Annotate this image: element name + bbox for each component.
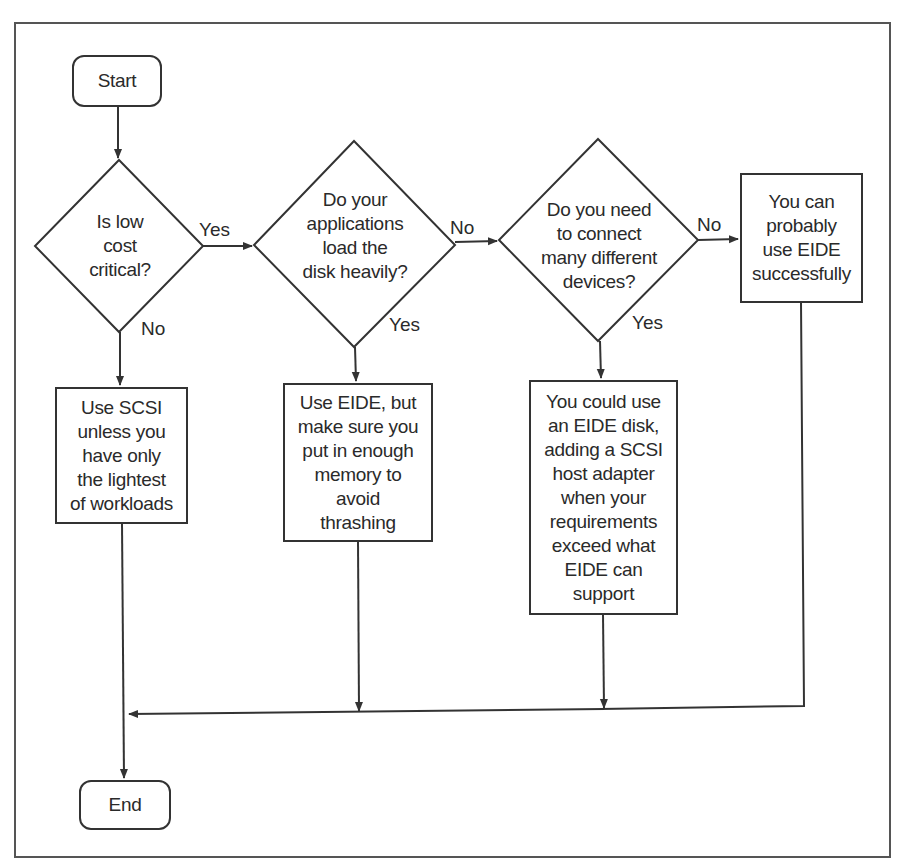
result-eide-scsi-adapter-label: You could use an EIDE disk, adding a SCS…	[544, 390, 663, 606]
end-label: End	[109, 793, 142, 817]
decision-many-devices: Do you need to connect many different de…	[528, 196, 670, 296]
decision-many-devices-label: Do you need to connect many different de…	[541, 198, 657, 294]
start-label: Start	[98, 69, 137, 93]
result-eide-memory-label: Use EIDE, but make sure you put in enoug…	[298, 391, 419, 535]
result-eide-ok-label: You can probably use EIDE successfully	[752, 190, 851, 286]
result-eide-scsi-adapter: You could use an EIDE disk, adding a SCS…	[529, 380, 678, 615]
start-node: Start	[72, 55, 162, 107]
edge-label-q1-yes: Yes	[199, 220, 230, 240]
result-eide-memory: Use EIDE, but make sure you put in enoug…	[283, 383, 433, 542]
edge-label-q3-yes: Yes	[632, 313, 663, 333]
result-use-scsi: Use SCSI unless you have only the lighte…	[55, 387, 188, 524]
edge-label-q2-yes: Yes	[389, 315, 420, 335]
decision-load-disk-label: Do your applications load the disk heavi…	[303, 188, 408, 284]
edge-label-q2-no: No	[450, 218, 474, 238]
decision-low-cost: Is low cost critical?	[60, 200, 180, 292]
result-use-scsi-label: Use SCSI unless you have only the lighte…	[70, 396, 173, 516]
decision-load-disk: Do your applications load the disk heavi…	[284, 186, 426, 286]
result-eide-ok: You can probably use EIDE successfully	[740, 173, 863, 303]
edge-label-q1-no: No	[141, 319, 165, 339]
edge-label-q3-no: No	[697, 215, 721, 235]
end-node: End	[79, 780, 171, 830]
decision-low-cost-label: Is low cost critical?	[89, 210, 151, 282]
